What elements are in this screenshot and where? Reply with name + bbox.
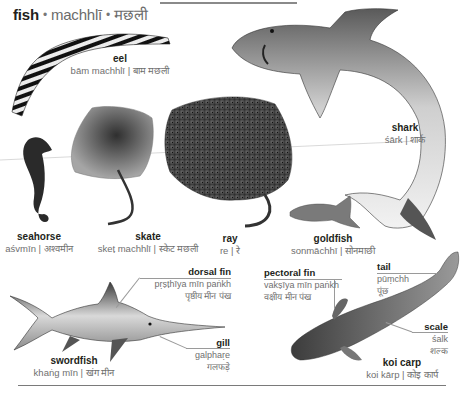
skate-translation: skeṭ machhlī | स्केट मछली <box>88 243 208 255</box>
eel-translation: bām machhlī | बाम मछली <box>60 65 180 77</box>
seahorse-translation: aśvmīn | अश्वमीन <box>0 243 78 255</box>
koi-carp-translation: koi kārp | कोइ कार्प <box>352 369 452 381</box>
annotation-tail: tail pūṃchh पूंछ <box>377 261 437 297</box>
goldfish-translation: sonmāchhī | सोनमाछी <box>278 245 388 257</box>
label-shark: shark śārk | शार्क <box>350 122 460 146</box>
swordfish-translation: khaṅg mīn | खंग मीन <box>24 367 124 379</box>
label-seahorse: seahorse aśvmīn | अश्वमीन <box>0 231 78 255</box>
skate-illustration <box>71 106 153 224</box>
bottom-divider <box>18 385 446 386</box>
fish-vocabulary-page: fish•machhlī•मछली <box>0 0 462 395</box>
seahorse-illustration <box>23 137 52 222</box>
label-skate: skate skeṭ machhlī | स्केट मछली <box>88 231 208 255</box>
annotation-dorsal-fin: dorsal fin pṛṣṭhīya mīn paṅkh पृष्ठीय मी… <box>150 266 231 302</box>
ray-translation: re | रे <box>210 245 250 257</box>
annotation-scale: scale śalk शल्क <box>400 321 448 357</box>
shark-translation: śārk | शार्क <box>350 134 460 146</box>
label-eel: eel bām machhlī | बाम मछली <box>60 53 180 77</box>
goldfish-illustration <box>290 196 360 228</box>
annotation-gill: gill galphaṛe गलफड़े <box>180 337 230 373</box>
label-swordfish: swordfish khaṅg mīn | खंग मीन <box>24 355 124 379</box>
annotation-pectoral-fin: pectoral fin vakṣīya mīn paṅkh वक्षीय मी… <box>264 267 354 303</box>
ray-illustration <box>165 97 292 226</box>
label-koi-carp: koi carp koi kārp | कोइ कार्प <box>352 357 452 381</box>
label-goldfish: goldfish sonmāchhī | सोनमाछी <box>278 233 388 257</box>
label-ray: ray re | रे <box>210 233 250 257</box>
